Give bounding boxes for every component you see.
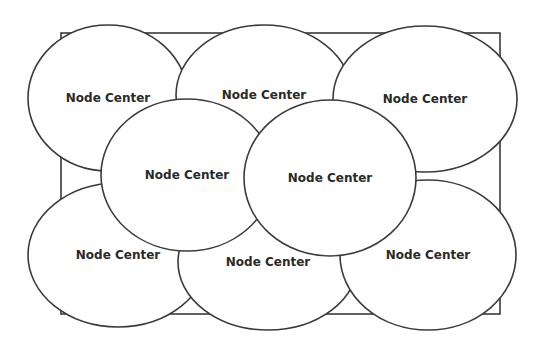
node-8: Node Center [244,100,416,256]
coverage-diagram: Node CenterNode CenterNode CenterNode Ce… [0,0,543,340]
node-label: Node Center [66,91,151,105]
node-label: Node Center [222,88,307,102]
node-label: Node Center [226,255,311,269]
node-label: Node Center [383,92,468,106]
node-label: Node Center [145,168,230,182]
node-label: Node Center [288,171,373,185]
node-label: Node Center [76,248,161,262]
node-label: Node Center [386,248,471,262]
